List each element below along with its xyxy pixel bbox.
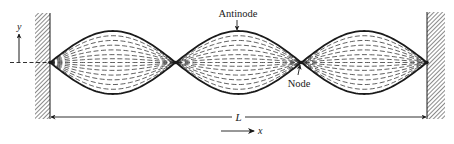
intermediate-displacement-curve — [50, 63, 427, 67]
antinode-label: Antinode — [218, 8, 257, 19]
standing-wave-diagram: y Antinode Node L x — [0, 0, 454, 144]
intermediate-displacement-curve — [50, 63, 427, 85]
intermediate-displacement-curve — [50, 40, 427, 62]
node-point — [425, 61, 429, 65]
intermediate-displacement-curve — [50, 45, 427, 62]
intermediate-displacement-curve — [50, 59, 427, 63]
length-label: L — [234, 111, 241, 123]
node-arrow — [298, 65, 300, 75]
y-axis-label: y — [16, 21, 22, 32]
right-wall — [427, 12, 445, 119]
intermediate-displacement-curve — [50, 50, 427, 63]
x-axis-label: x — [257, 125, 263, 136]
node-point — [300, 61, 304, 65]
node-point — [48, 61, 52, 65]
wave-loops — [48, 31, 429, 94]
node-label: Node — [288, 78, 311, 89]
intermediate-displacement-curve — [50, 63, 427, 76]
intermediate-displacement-curve — [50, 63, 427, 80]
node-point — [174, 61, 178, 65]
left-wall — [35, 13, 50, 119]
